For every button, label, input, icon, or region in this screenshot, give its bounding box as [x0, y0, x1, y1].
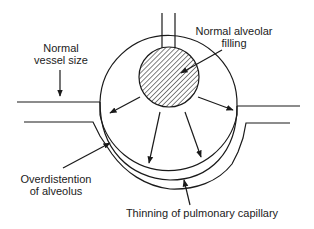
- airway-duct: [162, 13, 175, 48]
- label-line: Overdistention: [16, 173, 96, 185]
- label-normal-alveolar-filling: Normal alveolar filling: [184, 25, 284, 49]
- label-line: of alveolus: [16, 185, 96, 197]
- label-line: Thinning of pulmonary capillary: [117, 207, 287, 219]
- label-line: Normal: [26, 42, 96, 54]
- label-overdistention: Overdistention of alveolus: [16, 173, 96, 197]
- normal-alveolus: [139, 47, 199, 107]
- label-normal-vessel-size: Normal vessel size: [26, 42, 96, 66]
- alveolus-lower-wall: [100, 102, 237, 180]
- label-thinning-capillary: Thinning of pulmonary capillary: [117, 207, 287, 219]
- label-line: Normal alveolar: [184, 25, 284, 37]
- label-line: vessel size: [26, 54, 96, 66]
- label-line: filling: [184, 37, 284, 49]
